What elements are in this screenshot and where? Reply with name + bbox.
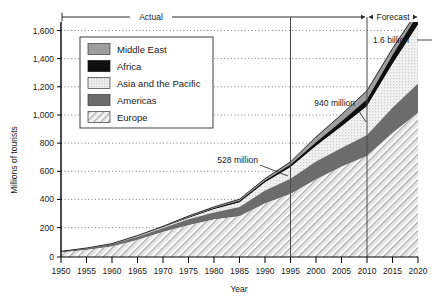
- asia-pacific-swatch: [88, 78, 110, 89]
- x-tick-label: 1990: [256, 266, 275, 276]
- y-tick-label: 1,600: [33, 26, 55, 36]
- y-tick-label: 0: [49, 252, 54, 262]
- x-tick-label: 1995: [281, 266, 300, 276]
- y-axis-title: Millions of tourists: [9, 126, 19, 194]
- callout-label: 1.6 billion: [373, 35, 409, 45]
- legend-label: Africa: [117, 61, 142, 72]
- forecast-period-label: Forecast: [376, 12, 410, 22]
- x-tick-label: 2000: [307, 266, 326, 276]
- period-span-bars: [62, 13, 417, 22]
- x-tick-label: 1960: [103, 266, 122, 276]
- middle-east-swatch: [88, 44, 110, 55]
- y-tick-label: 600: [40, 166, 54, 176]
- legend-label: Middle East: [117, 44, 167, 55]
- legend-label: Asia and the Pacific: [117, 78, 201, 89]
- callout-label: 940 million: [314, 98, 355, 108]
- africa-swatch: [88, 61, 110, 72]
- legend-label: Americas: [117, 95, 157, 106]
- y-tick-label: 1,200: [33, 82, 55, 92]
- x-tick-label: 2005: [332, 266, 351, 276]
- chart-legend: Middle East Africa Asia and the Pacific …: [80, 37, 213, 128]
- callout-1-6-billion: 1.6 billion: [373, 35, 432, 45]
- legend-item-americas[interactable]: Americas: [88, 95, 157, 106]
- x-tick-label: 1975: [179, 266, 198, 276]
- europe-swatch: [88, 112, 110, 123]
- chart-svg: 0 200 400 600 800 1,000 1,200 1,400 1,60…: [0, 0, 438, 307]
- americas-swatch: [88, 95, 110, 106]
- y-tick-labels: 0 200 400 600 800 1,000 1,200 1,400 1,60…: [33, 26, 55, 263]
- y-tick-label: 1,000: [33, 110, 55, 120]
- legend-label: Europe: [117, 112, 148, 123]
- x-tick-label: 1980: [205, 266, 224, 276]
- actual-period-label: Actual: [139, 12, 163, 22]
- x-tick-label: 1965: [128, 266, 147, 276]
- x-tick-label: 1955: [77, 266, 96, 276]
- y-tick-label: 200: [40, 223, 54, 233]
- y-tick-label: 1,400: [33, 54, 55, 64]
- chart-figure: 0 200 400 600 800 1,000 1,200 1,400 1,60…: [0, 0, 438, 307]
- x-tick-label: 2010: [358, 266, 377, 276]
- x-tick-label: 2020: [409, 266, 428, 276]
- x-axis-title: Year: [230, 284, 247, 294]
- legend-item-middle-east[interactable]: Middle East: [88, 44, 167, 55]
- x-tick-label: 1950: [52, 266, 71, 276]
- callout-label: 528 million: [217, 155, 258, 165]
- x-tick-label: 1970: [154, 266, 173, 276]
- x-tick-labels: 1950 1955 1960 1965 1970 1975 1980 1985 …: [52, 266, 428, 276]
- y-tick-label: 800: [40, 138, 54, 148]
- x-tick-label: 1985: [230, 266, 249, 276]
- legend-item-asia-pacific[interactable]: Asia and the Pacific: [88, 78, 201, 89]
- x-tick-label: 2015: [383, 266, 402, 276]
- legend-item-europe[interactable]: Europe: [88, 112, 148, 123]
- y-tick-label: 400: [40, 194, 54, 204]
- x-tick-marks: [61, 257, 418, 263]
